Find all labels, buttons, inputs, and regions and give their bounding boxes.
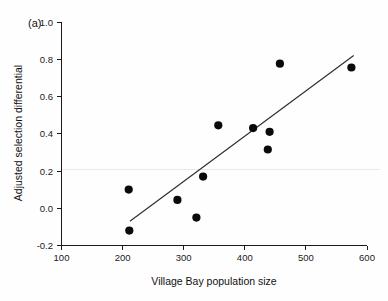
- y-tick-label-0.6: 0.6: [40, 91, 53, 102]
- y-axis-ticks: [57, 22, 62, 246]
- x-axis-ticks: [62, 246, 368, 251]
- x-tick-label-100: 100: [54, 252, 70, 263]
- y-tick-label-0.4: 0.4: [40, 128, 53, 139]
- x-tick-label-600: 600: [359, 252, 375, 263]
- scatter-plot: 1.0 0.8 0.6 0.4 0.2 0.0 -0.2 100 200 300…: [0, 0, 388, 301]
- data-point: [192, 214, 200, 222]
- y-tick-label-0.8: 0.8: [40, 54, 53, 65]
- data-point: [276, 60, 284, 68]
- y-axis-title: Adjusted selection differential: [12, 65, 24, 201]
- regression-line: [130, 56, 354, 222]
- x-tick-label-300: 300: [176, 252, 192, 263]
- y-tick-label--0.2: -0.2: [37, 240, 53, 251]
- x-tick-label-200: 200: [115, 252, 131, 263]
- data-point: [264, 145, 272, 153]
- data-point: [249, 124, 257, 132]
- data-point: [199, 173, 207, 181]
- y-tick-label-0.2: 0.2: [40, 166, 53, 177]
- figure-panel: 1.0 0.8 0.6 0.4 0.2 0.0 -0.2 100 200 300…: [0, 0, 388, 301]
- data-point: [173, 196, 181, 204]
- data-point: [125, 186, 133, 194]
- y-tick-label-1.0: 1.0: [40, 17, 53, 28]
- x-axis-title: Village Bay population size: [151, 275, 276, 287]
- data-points-group: [125, 60, 356, 235]
- data-point: [347, 63, 355, 71]
- data-point: [266, 128, 274, 136]
- panel-label: (a): [28, 17, 41, 29]
- data-point: [125, 227, 133, 235]
- x-tick-label-400: 400: [237, 252, 253, 263]
- x-tick-label-500: 500: [298, 252, 314, 263]
- y-tick-label-0.0: 0.0: [40, 203, 53, 214]
- data-point: [214, 121, 222, 129]
